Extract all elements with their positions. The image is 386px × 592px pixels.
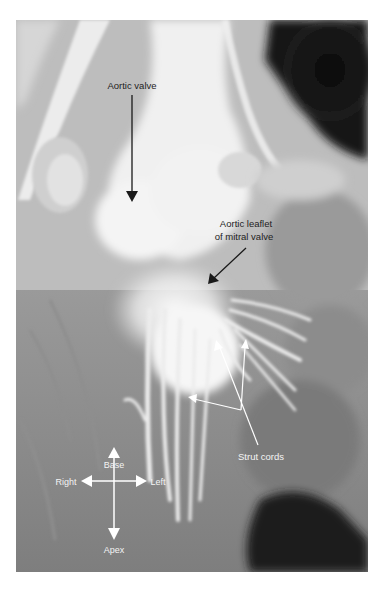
mitral-leaflet-label-line2: of mitral valve	[215, 231, 274, 243]
mitral-leaflet-label-line1: Aortic leaflet	[220, 218, 272, 230]
strut-cords-label: Strut cords	[238, 451, 284, 463]
aortic-valve-label: Aortic valve	[107, 80, 156, 92]
compass-right-label: Right	[55, 476, 76, 488]
compass-base-label: Base	[104, 459, 125, 471]
heart-photograph	[0, 0, 386, 592]
compass-left-label: Left	[150, 476, 165, 488]
compass-apex-label: Apex	[104, 544, 125, 556]
photo-content	[16, 15, 380, 572]
